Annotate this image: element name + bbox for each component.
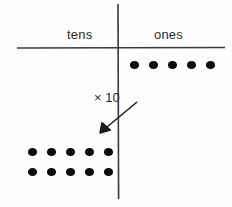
tens-dot	[28, 168, 37, 176]
tens-dot-row	[28, 148, 113, 156]
ones-dot-row	[130, 61, 215, 69]
tens-dot	[104, 148, 113, 156]
column-header-tens: tens	[67, 27, 92, 42]
ones-dot	[149, 61, 158, 69]
tens-dot	[66, 168, 75, 176]
tens-dot	[85, 168, 94, 176]
ones-dot	[206, 61, 215, 69]
tens-dot-row	[28, 168, 113, 176]
tens-dot	[47, 148, 56, 156]
ones-dot	[187, 61, 196, 69]
place-value-chart: tens ones × 10	[0, 0, 232, 207]
tens-dot	[85, 148, 94, 156]
multiply-by-ten-label: × 10	[94, 90, 120, 105]
tens-dot	[104, 168, 113, 176]
tens-dot	[28, 148, 37, 156]
ones-dot	[168, 61, 177, 69]
column-header-ones: ones	[154, 27, 183, 42]
tens-dot	[47, 168, 56, 176]
ones-dot	[130, 61, 139, 69]
tens-dot	[66, 148, 75, 156]
horizontal-header-line	[17, 47, 225, 48]
